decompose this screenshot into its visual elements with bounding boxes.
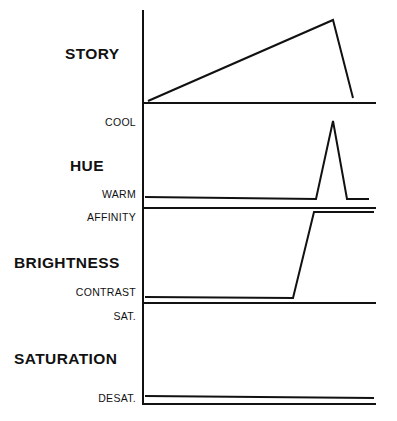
axis-label-cool: COOL [105, 116, 136, 128]
series-story-arc [148, 20, 353, 101]
axis-label-sat: SAT. [113, 310, 136, 322]
panel-baselines [143, 103, 376, 404]
series-saturation-curve [145, 396, 374, 398]
axis-label-contrast: CONTRAST [76, 286, 136, 298]
section-title-hue: HUE [70, 157, 104, 175]
axis-label-affinity: AFFINITY [87, 211, 136, 223]
section-title-brightness: BRIGHTNESS [14, 254, 120, 272]
chart-canvas: STORY HUE BRIGHTNESS SATURATION COOL WAR… [0, 0, 397, 421]
axis-label-warm: WARM [102, 188, 136, 200]
series-brightness-curve [145, 212, 374, 298]
section-title-story: STORY [65, 45, 120, 63]
series-hue-curve [145, 121, 369, 199]
section-title-saturation: SATURATION [14, 350, 117, 368]
axis-label-desat: DESAT. [98, 392, 136, 404]
